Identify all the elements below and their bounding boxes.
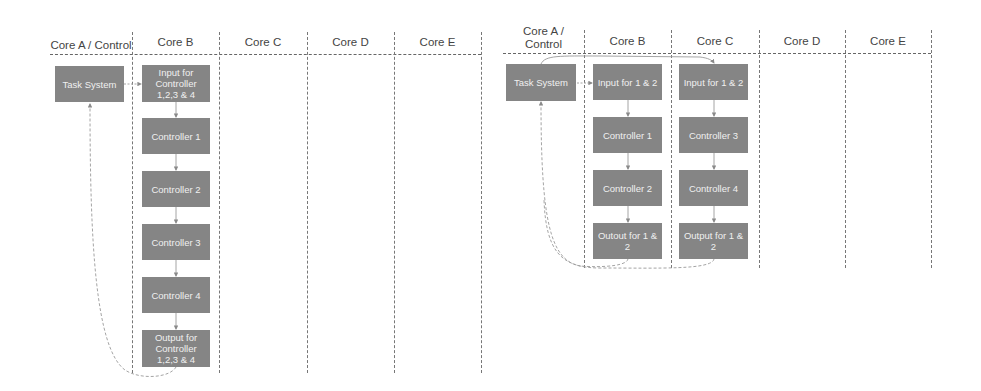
left-column-divider — [307, 32, 308, 373]
right-core-c-input-box: Input for 1 & 2 — [679, 64, 748, 100]
right-controller-1-box: Controller 1 — [593, 117, 662, 153]
left-header-core-b: Core B — [132, 22, 219, 49]
left-controller-4-box: Controller 4 — [142, 277, 210, 313]
left-column-divider — [132, 32, 133, 373]
left-controller-1-box: Controller 1 — [142, 118, 210, 154]
left-controller-3-box: Controller 3 — [142, 224, 210, 260]
left-input-box: Input for Controller 1,2,3 & 4 — [142, 65, 210, 102]
right-column-divider — [845, 30, 846, 268]
left-header-core-e: Core E — [394, 22, 481, 49]
right-task-system-box: Task System — [506, 64, 576, 101]
right-header-core-a: Core A / Control — [503, 21, 584, 51]
core-allocation-diagram: Core A / Control Core B Core C Core D Co… — [0, 0, 981, 391]
left-output-box: Output for Controller 1,2,3 & 4 — [142, 330, 210, 367]
right-controller-2-box: Controller 2 — [593, 170, 662, 206]
left-header-divider — [50, 54, 481, 55]
right-header-core-d: Core D — [759, 21, 845, 48]
right-core-c-output-box: Output for 1 & 2 — [679, 223, 748, 259]
right-controller-4-box: Controller 4 — [679, 170, 748, 206]
right-column-divider — [671, 30, 672, 268]
right-header-core-c: Core C — [671, 21, 759, 48]
left-header-core-d: Core D — [307, 22, 394, 49]
left-column-divider — [219, 32, 220, 373]
left-column-divider — [394, 32, 395, 373]
right-core-b-output-box: Outout for 1 & 2 — [593, 223, 662, 259]
left-header-core-c: Core C — [219, 22, 307, 49]
right-header-divider — [503, 53, 931, 54]
left-header-core-a: Core A / Control — [50, 22, 132, 52]
left-task-system-box: Task System — [55, 66, 124, 102]
right-header-core-b: Core B — [584, 21, 671, 48]
left-column-divider — [481, 32, 482, 373]
right-column-divider — [759, 30, 760, 268]
right-controller-3-box: Controller 3 — [679, 117, 748, 153]
right-column-divider — [584, 30, 585, 268]
right-core-b-input-box: Input for 1 & 2 — [593, 64, 662, 100]
left-controller-2-box: Controller 2 — [142, 171, 210, 207]
right-header-core-e: Core E — [845, 21, 931, 48]
right-column-divider — [931, 30, 932, 268]
